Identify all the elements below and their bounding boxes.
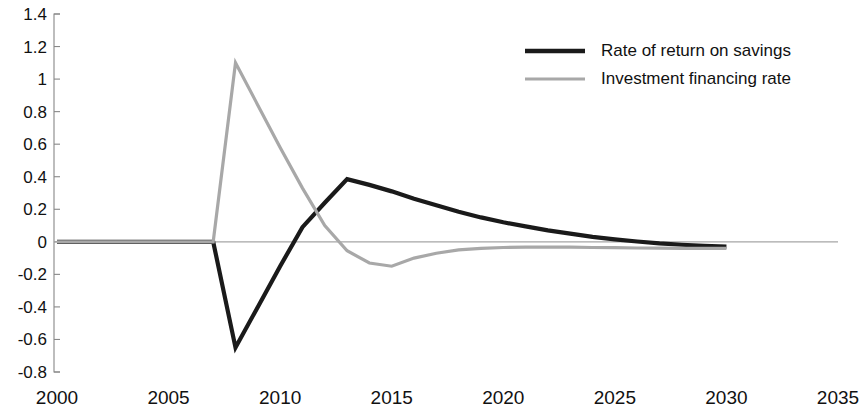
x-axis-tick-label: 2030 (705, 387, 747, 408)
x-axis-tick-label: 2025 (594, 387, 636, 408)
y-axis-tick-label: 0.6 (23, 135, 47, 154)
legend-label: Rate of return on savings (601, 41, 791, 60)
x-axis: 20002005201020152020202520302035 (36, 387, 859, 408)
y-axis-tick-label: 0.2 (23, 200, 47, 219)
y-axis-tick-label: 1.4 (23, 5, 47, 24)
y-axis-tick-label: 0.4 (23, 168, 47, 187)
y-axis-spine (54, 14, 60, 372)
series-line (57, 179, 726, 347)
y-axis-tick-label: 0 (38, 233, 47, 252)
y-axis: -0.8-0.6-0.4-0.200.20.40.60.811.21.4 (18, 5, 60, 382)
y-axis-tick-label: -0.2 (18, 265, 47, 284)
x-axis-tick-label: 2005 (147, 387, 189, 408)
y-axis-tick-label: -0.6 (18, 330, 47, 349)
x-axis-tick-label: 2000 (36, 387, 78, 408)
chart-legend: Rate of return on savingsInvestment fina… (525, 41, 791, 88)
x-axis-tick-label: 2035 (817, 387, 859, 408)
series-line (57, 63, 726, 266)
y-axis-tick-label: 1.2 (23, 38, 47, 57)
chart-container: -0.8-0.6-0.4-0.200.20.40.60.811.21.4 200… (0, 0, 860, 413)
data-series-group (57, 63, 726, 348)
y-axis-tick-label: 0.8 (23, 103, 47, 122)
y-axis-tick-label: -0.8 (18, 363, 47, 382)
y-axis-tick-label: -0.4 (18, 298, 47, 317)
legend-label: Investment financing rate (601, 69, 791, 88)
y-axis-tick-label: 1 (38, 70, 47, 89)
x-axis-tick-label: 2020 (482, 387, 524, 408)
x-axis-tick-label: 2010 (259, 387, 301, 408)
line-chart: -0.8-0.6-0.4-0.200.20.40.60.811.21.4 200… (0, 0, 860, 413)
x-axis-tick-label: 2015 (371, 387, 413, 408)
